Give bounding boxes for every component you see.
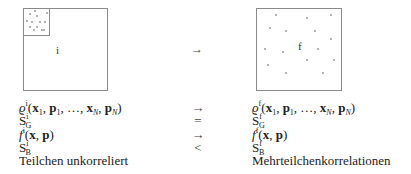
relation-less-than: < bbox=[188, 141, 208, 154]
row-description-initial: Teilchen unkorreliert bbox=[19, 154, 128, 167]
row-gibbs-entropy-final: SfG bbox=[252, 114, 265, 127]
row-rho-final: ϱf(x1, p1, …, xN, pN) bbox=[252, 101, 355, 114]
row-gibbs-entropy-initial: SiG bbox=[19, 114, 31, 127]
row-rho-initial: ϱi(x1, p1, …, xN, pN) bbox=[19, 101, 122, 114]
row-description-final: Mehrteilchenkorrelationen bbox=[252, 154, 391, 167]
relation-equals: = bbox=[188, 114, 208, 127]
final-state-label: f bbox=[298, 40, 302, 52]
